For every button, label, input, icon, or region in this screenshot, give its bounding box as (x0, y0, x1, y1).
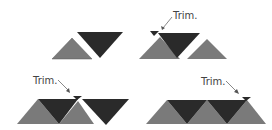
trim-arrow-line (163, 17, 172, 28)
trim-dog-ear (150, 31, 159, 36)
trim-label: Trim. (172, 10, 197, 21)
trim-label: Trim. (200, 76, 225, 87)
trim-arrow-line (226, 81, 236, 91)
step-4-group: Trim. (146, 76, 266, 124)
step-3-group: Trim. (17, 75, 129, 125)
triangle-piecing-diagram: Trim. Trim. Trim. (0, 0, 272, 130)
light-triangle-separate (187, 39, 227, 59)
step-1-group (52, 32, 123, 59)
step-2-group: Trim. (139, 10, 227, 59)
trim-arrow-line (58, 80, 68, 90)
trim-label: Trim. (32, 75, 57, 86)
